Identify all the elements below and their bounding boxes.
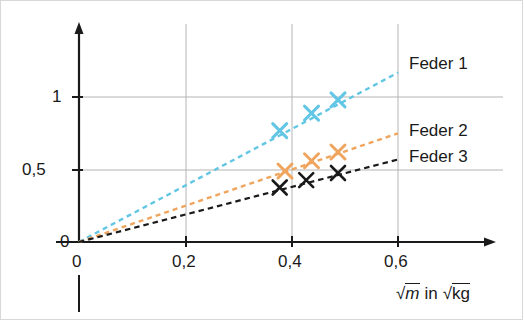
series-label-feder-1: Feder 1 [409, 55, 468, 72]
series-label-feder-2: Feder 2 [409, 122, 468, 139]
xtick-label-0: 0 [72, 253, 81, 270]
data-point-marker [331, 93, 345, 107]
x-axis-connector: in [425, 284, 438, 303]
xtick-label-06: 0,6 [384, 253, 408, 270]
series-markers-feder-2 [278, 145, 345, 178]
data-point-marker [273, 181, 287, 195]
xtick-label-04: 0,4 [278, 253, 302, 270]
series-line-feder-2 [79, 133, 398, 242]
y-axis-arrow [75, 22, 84, 34]
data-point-marker [331, 145, 345, 159]
x-axis-label: √min√kg [396, 283, 470, 302]
radical-icon-2: √ [443, 284, 452, 303]
data-point-marker [331, 166, 345, 180]
spring-period-chart: Tin s √min√kg 1 0,5 0 0 0,2 0,4 0,6 Fede… [0, 0, 524, 321]
xtick-label-02: 0,2 [172, 253, 196, 270]
ytick-label-0: 0 [60, 233, 69, 250]
x-axis-unit: kg [452, 283, 470, 302]
series-label-feder-3: Feder 3 [409, 148, 468, 165]
data-point-marker [299, 173, 313, 187]
series-markers-feder-1 [273, 93, 345, 138]
radical-icon: √ [396, 284, 405, 303]
data-point-marker [278, 164, 292, 178]
series-line-feder-3 [79, 160, 398, 243]
series-line-feder-1 [79, 73, 398, 242]
data-point-marker [305, 154, 319, 168]
ytick-label-1: 1 [52, 88, 61, 105]
x-axis-variable: m [405, 283, 419, 302]
x-axis-arrow [484, 238, 496, 247]
ytick-label-05: 0,5 [22, 161, 46, 178]
